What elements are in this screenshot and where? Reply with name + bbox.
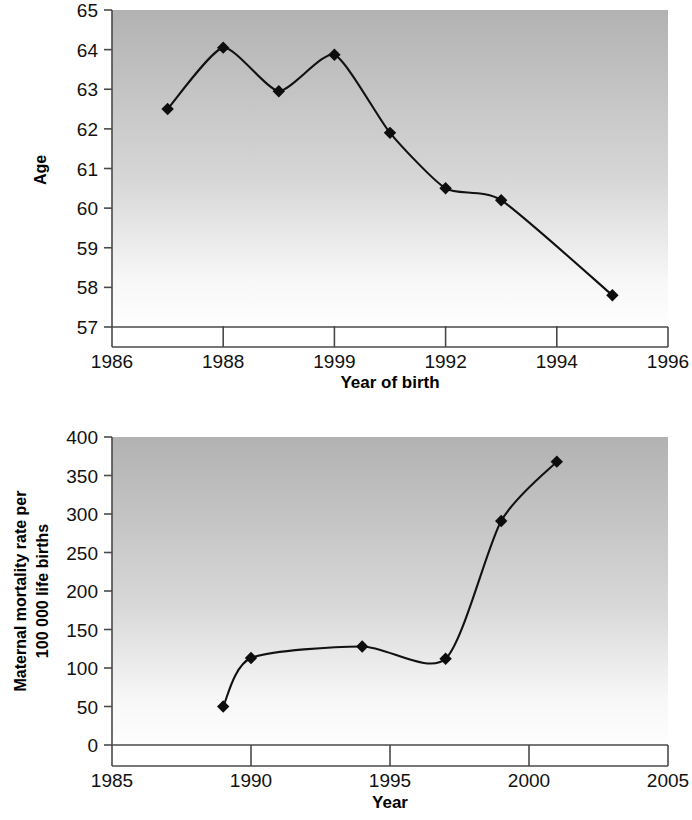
- y-tick-label: 50: [77, 697, 98, 718]
- x-tick-label: 1990: [230, 770, 272, 791]
- x-tick-label: 1995: [369, 770, 411, 791]
- y-tick-label: 100: [66, 658, 98, 679]
- age-at-birth-chart: 575859606162636465 198619881999199219941…: [0, 0, 692, 410]
- x-tick-label: 1988: [202, 351, 244, 372]
- y-axis-title-line2: 100 000 life births: [34, 524, 51, 658]
- y-axis-ticks: 575859606162636465: [77, 0, 112, 338]
- x-tick-label: 2000: [508, 770, 550, 791]
- x-axis-ticks: 19851990199520002005: [91, 745, 689, 791]
- x-axis-ticks: 198619881999199219941996: [91, 326, 689, 372]
- plot-background: [112, 437, 668, 745]
- age-chart-canvas: 575859606162636465 198619881999199219941…: [0, 0, 692, 410]
- x-tick-label: 1986: [91, 351, 133, 372]
- y-tick-label: 57: [77, 317, 98, 338]
- y-tick-label: 60: [77, 198, 98, 219]
- y-tick-label: 0: [87, 735, 98, 756]
- y-tick-label: 250: [66, 543, 98, 564]
- x-tick-label: 1994: [536, 351, 579, 372]
- y-tick-label: 64: [77, 40, 99, 61]
- y-axis-ticks: 050100150200250300350400: [66, 427, 112, 756]
- y-axis-title: Age: [32, 155, 49, 185]
- mortality-chart-canvas: 050100150200250300350400 198519901995200…: [0, 410, 692, 820]
- x-tick-label: 1996: [647, 351, 689, 372]
- y-tick-label: 200: [66, 581, 98, 602]
- x-tick-label: 1992: [424, 351, 466, 372]
- y-tick-label: 58: [77, 277, 98, 298]
- maternal-mortality-chart: 050100150200250300350400 198519901995200…: [0, 410, 692, 820]
- y-tick-label: 63: [77, 79, 98, 100]
- y-tick-label: 400: [66, 427, 98, 448]
- y-tick-label: 150: [66, 620, 98, 641]
- y-tick-label: 62: [77, 119, 98, 140]
- y-tick-label: 300: [66, 504, 98, 525]
- y-tick-label: 59: [77, 238, 98, 259]
- y-axis-title-line1: Maternal mortality rate per: [12, 491, 29, 692]
- y-tick-label: 61: [77, 159, 98, 180]
- plot-background: [112, 10, 668, 327]
- y-tick-label: 350: [66, 466, 98, 487]
- x-tick-label: 1999: [313, 351, 355, 372]
- x-axis-title: Year: [372, 793, 408, 812]
- x-axis-title: Year of birth: [340, 373, 439, 392]
- x-tick-label: 2005: [647, 770, 689, 791]
- x-tick-label: 1985: [91, 770, 133, 791]
- y-tick-label: 65: [77, 0, 98, 21]
